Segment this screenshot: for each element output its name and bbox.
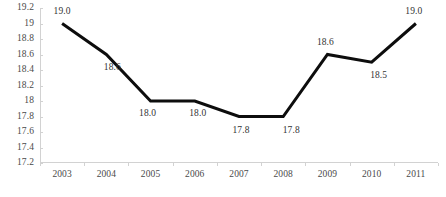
y-axis-tick-mark (40, 117, 43, 118)
data-point-label: 18.6 (104, 63, 121, 73)
y-axis-tick-label: 17.8 (17, 112, 34, 122)
data-point-label: 17.8 (283, 126, 300, 136)
y-axis-tick-label: 18.8 (17, 34, 34, 44)
plot-area (40, 8, 438, 163)
x-axis-tick-mark (305, 163, 306, 166)
x-axis-tick-label: 2011 (406, 170, 425, 180)
y-axis-tick-mark (40, 39, 43, 40)
x-axis-tick-label: 2008 (274, 170, 293, 180)
x-axis-tick-mark (128, 163, 129, 166)
y-axis-tick-label: 17.2 (17, 158, 34, 168)
data-point-label: 17.8 (232, 126, 249, 136)
data-point-label: 18.6 (317, 38, 334, 48)
y-axis-tick-mark (40, 101, 43, 102)
y-axis-tick-label: 18.6 (17, 50, 34, 60)
y-axis-tick-label: 18.4 (17, 65, 34, 75)
y-axis-tick-label: 18.2 (17, 81, 34, 91)
x-axis-tick-mark (173, 163, 174, 166)
x-axis-tick-mark (217, 163, 218, 166)
y-axis-tick-mark (40, 8, 43, 9)
y-axis-tick-label: 19.2 (17, 3, 34, 13)
data-point-label: 18.0 (139, 109, 156, 119)
y-axis-tick-label: 19 (24, 19, 34, 29)
y-axis-tick-mark (40, 86, 43, 87)
x-axis-tick-label: 2006 (185, 170, 204, 180)
x-axis-tick-label: 2003 (52, 170, 71, 180)
line-chart: 19.21918.818.618.418.21817.817.617.417.2… (0, 0, 446, 197)
y-axis-tick-label: 18 (24, 96, 34, 106)
y-axis-tick-mark (40, 132, 43, 133)
x-axis-tick-label: 2009 (318, 170, 337, 180)
x-axis-tick-mark (40, 163, 41, 166)
x-axis-tick-mark (261, 163, 262, 166)
data-point-label: 18.5 (370, 72, 387, 82)
x-axis-tick-label: 2005 (141, 170, 160, 180)
y-axis-tick-mark (40, 70, 43, 71)
y-axis: 19.21918.818.618.418.21817.817.617.417.2 (0, 8, 36, 163)
data-point-label: 19.0 (405, 7, 422, 17)
x-axis-tick-label: 2004 (97, 170, 116, 180)
y-axis-tick-mark (40, 55, 43, 56)
x-axis-tick-mark (438, 163, 439, 166)
x-axis-tick-mark (394, 163, 395, 166)
data-point-label: 19.0 (54, 7, 71, 17)
y-axis-tick-label: 17.6 (17, 127, 34, 137)
y-axis-tick-mark (40, 148, 43, 149)
x-axis-tick-mark (84, 163, 85, 166)
data-point-label: 18.0 (189, 109, 206, 119)
y-axis-tick-label: 17.4 (17, 143, 34, 153)
x-axis-tick-label: 2007 (229, 170, 248, 180)
x-axis-tick-mark (350, 163, 351, 166)
y-axis-tick-mark (40, 24, 43, 25)
x-axis-tick-label: 2010 (362, 170, 381, 180)
